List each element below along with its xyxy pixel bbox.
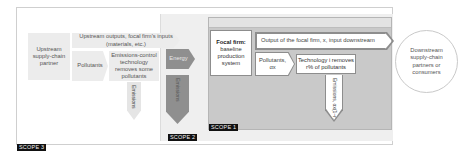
pollutants-upstream-arrow: Pollutants [72,51,108,81]
focal-firm-title: Focal firm: [216,39,246,46]
emissions-upstream-label: Emissions [131,85,137,109]
focal-firm-node: Focal firm: baseline production system [210,30,252,76]
pollutants-upstream-label: Pollutants [77,62,102,69]
output-focal-label: Output of the focal firm, x, input downs… [261,37,375,44]
pollutants-scope1-label: Pollutants, αx [256,57,294,71]
upstream-partner-label: Upstream supply-chain partner [28,46,70,68]
scope2-tag: SCOPE 2 [168,134,197,141]
focal-firm-desc: baseline production system [211,46,251,68]
emissions-control-label: Emissions-control technology removes som… [109,52,159,81]
emissions-scope2-label: Emissions [175,78,181,102]
pollutants-scope1-arrow: Pollutants, αx [256,53,294,75]
upstream-outputs-label: Upstream outputs, focal firm's inputs (m… [72,33,180,47]
scope3-tag: SCOPE 3 [17,144,46,151]
emissions-control-node: Emissions-control technology removes som… [109,51,159,81]
upstream-partner-node: Upstream supply-chain partner [28,33,70,80]
downstream-node: Downstream supply-chain partners or cons… [395,30,458,93]
emissions-scope1-label: Emissions, αx(1−r) [331,78,337,120]
scope1-tag: SCOPE 1 [209,124,238,131]
output-focal-arrow: Output of the focal firm, x, input downs… [256,33,392,49]
upstream-outputs-arrow: Upstream outputs, focal firm's inputs (m… [72,33,180,48]
technology-i-node: Technology i removes r% of pollutants [296,54,356,74]
energy-label: Energy [169,55,191,62]
technology-i-label: Technology i removes r% of pollutants [297,57,355,71]
scope1-header-strip [209,18,391,28]
downstream-label: Downstream supply-chain partners or cons… [396,47,457,76]
